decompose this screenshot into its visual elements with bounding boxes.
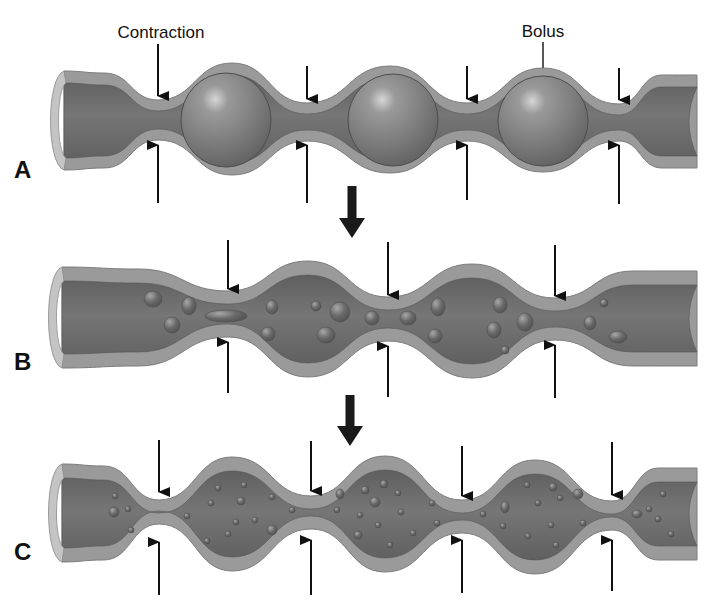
- thick-down-arrow-icon: [339, 186, 365, 238]
- chyme-particle: [410, 530, 416, 536]
- chyme-particle: [336, 489, 344, 499]
- thick-down-arrow-icon: [337, 395, 363, 446]
- chyme-particle: [144, 291, 162, 307]
- chyme-particle: [205, 310, 247, 322]
- chyme-particle: [553, 542, 559, 548]
- chyme-particle: [493, 297, 507, 313]
- chyme-particle: [311, 301, 321, 311]
- chyme-particle: [237, 497, 245, 505]
- chyme-particle: [524, 482, 530, 488]
- chyme-particle: [354, 531, 362, 539]
- panel-c-label: C: [14, 538, 31, 565]
- panel-c-tube: [49, 440, 698, 595]
- food-bolus: [498, 76, 588, 166]
- bolus-label: Bolus: [522, 22, 565, 41]
- chyme-particle: [500, 523, 506, 529]
- chyme-particle: [266, 300, 278, 314]
- chyme-particle: [655, 516, 661, 522]
- chyme-particle: [380, 480, 388, 488]
- chyme-particle: [365, 311, 379, 325]
- chyme-particle: [233, 519, 239, 525]
- chyme-particle: [128, 527, 134, 533]
- food-bolus: [181, 73, 271, 167]
- chyme-particle: [525, 533, 531, 539]
- chyme-particle: [261, 327, 275, 341]
- chyme-particle: [109, 507, 119, 517]
- chyme-particle: [370, 497, 380, 507]
- chyme-particle: [387, 542, 393, 548]
- chyme-particle: [501, 501, 509, 513]
- chyme-particle: [317, 327, 335, 343]
- chyme-particle: [289, 507, 295, 513]
- chyme-particle: [573, 489, 583, 499]
- panel-a-label: A: [14, 156, 31, 183]
- chyme-particle: [269, 494, 275, 500]
- food-bolus: [348, 74, 438, 166]
- chyme-particle: [334, 507, 340, 513]
- chyme-particle: [241, 482, 247, 488]
- chyme-particle: [184, 513, 190, 519]
- chyme-particle: [208, 500, 214, 506]
- chyme-particle: [375, 522, 381, 528]
- chyme-particle: [431, 298, 445, 316]
- panel-a-tube: [51, 44, 698, 204]
- chyme-particle: [580, 520, 586, 526]
- chyme-particle: [395, 490, 401, 496]
- chyme-particle: [428, 329, 442, 343]
- chyme-particle: [668, 531, 674, 537]
- chyme-particle: [660, 491, 666, 497]
- chyme-particle: [267, 525, 277, 535]
- chyme-particle: [434, 520, 440, 526]
- chyme-particle: [204, 538, 210, 544]
- chyme-particle: [164, 317, 180, 333]
- panel-b-tube: [49, 240, 698, 398]
- chyme-particle: [357, 512, 363, 518]
- chyme-particle: [480, 511, 486, 517]
- chyme-particle: [557, 495, 563, 501]
- chyme-particle: [646, 506, 652, 512]
- chyme-particle: [252, 517, 258, 523]
- chyme-particle: [125, 506, 131, 512]
- chyme-particle: [330, 302, 350, 322]
- chyme-particle: [182, 297, 196, 315]
- chyme-particle: [584, 316, 596, 330]
- chyme-particle: [225, 531, 231, 537]
- chyme-particle: [361, 486, 369, 494]
- chyme-particle: [400, 311, 416, 325]
- chyme-particle: [609, 331, 627, 343]
- chyme-particle: [535, 500, 541, 506]
- chyme-particle: [501, 346, 509, 354]
- chyme-particle: [112, 493, 118, 499]
- chyme-particle: [517, 313, 533, 331]
- chyme-particle: [398, 509, 404, 515]
- chyme-particle: [548, 522, 554, 528]
- panel-b-label: B: [14, 348, 31, 375]
- peristalsis-diagram: Contraction Bolus A B C: [0, 0, 711, 612]
- chyme-particle: [632, 510, 642, 518]
- chyme-particle: [487, 322, 501, 338]
- chyme-particle: [215, 485, 221, 491]
- chyme-particle: [600, 299, 608, 307]
- contraction-label: Contraction: [118, 23, 205, 42]
- chyme-particle: [429, 500, 435, 506]
- chyme-particle: [549, 483, 557, 491]
- diagram-canvas: Contraction Bolus A B C: [0, 0, 711, 612]
